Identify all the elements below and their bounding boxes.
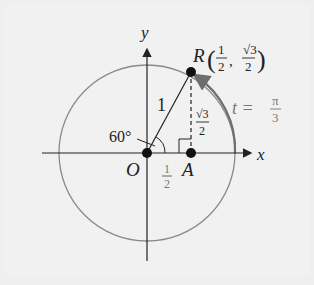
AR-denominator: 2 bbox=[199, 124, 205, 138]
point-O bbox=[142, 148, 152, 158]
unit-circle-diagram: y x O A R ( 1 2 , √3 2 ) 1 60° 1 2 √3 2 … bbox=[0, 0, 314, 285]
paren-right: ) bbox=[257, 45, 266, 74]
arc-label-t: t = bbox=[232, 98, 254, 118]
origin-label: O bbox=[126, 159, 140, 180]
OA-denominator: 2 bbox=[164, 177, 170, 191]
OA-numerator: 1 bbox=[164, 162, 170, 176]
comma: , bbox=[229, 53, 233, 69]
R-y-numerator: √3 bbox=[243, 42, 257, 57]
point-A-label: A bbox=[180, 159, 194, 180]
angle-arc bbox=[156, 137, 165, 153]
x-axis-label: x bbox=[256, 145, 265, 164]
R-x-denominator: 2 bbox=[218, 59, 225, 74]
radius-segment bbox=[147, 72, 191, 153]
angle-label: 60° bbox=[109, 128, 131, 145]
R-x-numerator: 1 bbox=[218, 42, 225, 57]
paren-left: ( bbox=[207, 45, 216, 74]
arc-numerator: π bbox=[272, 93, 279, 108]
arc-denominator: 3 bbox=[272, 110, 279, 125]
point-A bbox=[186, 148, 196, 158]
point-R-label: R bbox=[192, 45, 205, 66]
y-axis-label: y bbox=[139, 23, 149, 42]
radius-label: 1 bbox=[157, 95, 166, 115]
AR-numerator: √3 bbox=[196, 107, 209, 121]
figure-frame: y x O A R ( 1 2 , √3 2 ) 1 60° 1 2 √3 2 … bbox=[0, 0, 314, 285]
R-y-denominator: 2 bbox=[245, 59, 252, 74]
point-R bbox=[186, 67, 196, 77]
